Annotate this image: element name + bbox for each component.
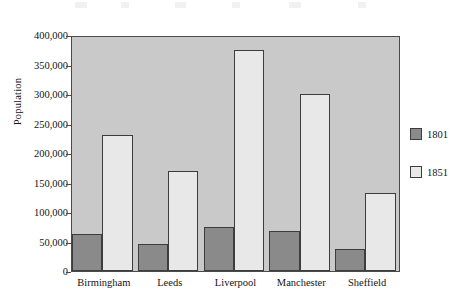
bar-manchester-1801 — [269, 231, 299, 271]
bar-liverpool-1851 — [234, 50, 264, 271]
legend-item-1801: 1801 — [410, 128, 462, 140]
bar-leeds-1851 — [168, 171, 198, 271]
y-tick-label: 350,000 — [4, 61, 68, 72]
bars-container — [72, 37, 399, 271]
bar-birmingham-1801 — [72, 234, 102, 271]
y-tick-label: 200,000 — [4, 149, 68, 160]
chart-legend: 18011851 — [410, 128, 462, 204]
bar-sheffield-1851 — [365, 193, 395, 271]
bar-birmingham-1851 — [102, 135, 132, 271]
bar-leeds-1801 — [138, 244, 168, 271]
y-tick-label: 400,000 — [4, 31, 68, 42]
y-tick-label: 300,000 — [4, 90, 68, 101]
y-tick-label: 0 — [4, 267, 68, 278]
y-axis-ticks: 050,000100,000150,000200,000250,000300,0… — [0, 0, 68, 301]
y-tick-label: 50,000 — [4, 238, 68, 249]
scan-artifact — [60, 2, 442, 8]
bar-sheffield-1801 — [335, 249, 365, 271]
legend-item-1851: 1851 — [410, 166, 462, 178]
legend-label-1801: 1801 — [427, 129, 448, 140]
y-tick-label: 250,000 — [4, 120, 68, 131]
legend-swatch-1851 — [410, 166, 422, 178]
plot-area — [71, 36, 400, 272]
bar-manchester-1851 — [300, 94, 330, 271]
legend-swatch-1801 — [410, 128, 422, 140]
population-bar-chart: Population 050,000100,000150,000200,0002… — [0, 0, 462, 301]
y-tick-mark — [66, 272, 71, 273]
x-label-sheffield: Sheffield — [317, 277, 417, 288]
y-tick-label: 100,000 — [4, 208, 68, 219]
bar-liverpool-1801 — [204, 227, 234, 271]
y-tick-label: 150,000 — [4, 179, 68, 190]
legend-label-1851: 1851 — [427, 167, 448, 178]
